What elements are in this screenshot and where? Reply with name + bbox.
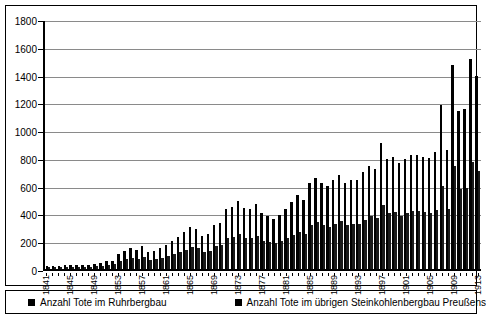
legend-item-uebriger-steinkohlenbergbau: Anzahl Tote im übrigen Steinkohlenbergba… (235, 297, 486, 308)
x-axis-tick-mark (418, 273, 419, 276)
legend-label: Anzahl Tote im übrigen Steinkohlenbergba… (247, 297, 486, 308)
x-axis-tick-mark (220, 273, 221, 276)
y-axis-tick-label: 1400 (15, 71, 37, 82)
bar-group (475, 21, 481, 269)
bar-uebriger-steinkohlenbergbau (478, 171, 480, 269)
x-axis-tick-mark (172, 273, 173, 276)
x-axis-tick-mark (340, 273, 341, 276)
y-axis-tick-label: 800 (20, 154, 37, 165)
x-axis-tick-mark (346, 273, 347, 276)
y-axis-tick-mark (38, 271, 43, 272)
x-axis-tick-mark (154, 273, 155, 276)
y-axis-tick-label: 1600 (15, 43, 37, 54)
x-axis-tick-mark (100, 273, 101, 276)
x-axis-tick-mark (148, 273, 149, 276)
x-axis-tick-mark (202, 273, 203, 276)
x-axis-tick-mark (250, 273, 251, 276)
x-axis-tick-mark (298, 273, 299, 276)
legend-swatch-icon (235, 299, 242, 306)
x-axis-tick-mark (268, 273, 269, 276)
y-axis-tick-label: 200 (20, 238, 37, 249)
x-axis-tick-mark (274, 273, 275, 276)
y-axis-tick-label: 1200 (15, 99, 37, 110)
y-axis-tick-label: 0 (31, 266, 37, 277)
x-axis-tick-mark (388, 273, 389, 276)
x-axis-tick-mark (196, 273, 197, 276)
y-axis-tick-label: 600 (20, 182, 37, 193)
y-axis: 020040060080010001200140016001800 (6, 6, 43, 272)
x-axis-tick-mark (364, 273, 365, 276)
chart-legend: Anzahl Tote im Ruhrbergbau Anzahl Tote i… (5, 290, 477, 314)
y-axis-tick-label: 1800 (15, 16, 37, 27)
x-axis-tick-mark (52, 273, 53, 276)
x-axis-tick-mark (436, 273, 437, 276)
x-axis-tick-mark (82, 273, 83, 276)
bar-series-container (45, 21, 481, 269)
x-axis-tick-mark (394, 273, 395, 276)
x-axis-tick-mark (130, 273, 131, 276)
x-axis-tick-mark (178, 273, 179, 276)
plot-area (43, 21, 481, 271)
x-axis-tick-mark (460, 273, 461, 276)
x-axis-tick-mark (316, 273, 317, 276)
legend-item-ruhrbergbau: Anzahl Tote im Ruhrbergbau (28, 297, 167, 308)
x-axis-tick-mark (58, 273, 59, 276)
legend-label: Anzahl Tote im Ruhrbergbau (40, 297, 167, 308)
x-axis-tick-mark (442, 273, 443, 276)
x-axis-tick-mark (292, 273, 293, 276)
x-axis-tick-mark (322, 273, 323, 276)
y-axis-tick-label: 1000 (15, 127, 37, 138)
x-axis-tick-mark (370, 273, 371, 276)
legend-swatch-icon (28, 299, 35, 306)
x-axis-tick-mark (466, 273, 467, 276)
x-axis-tick-mark (106, 273, 107, 276)
x-axis-tick-mark (76, 273, 77, 276)
x-axis-tick-mark (244, 273, 245, 276)
x-axis-tick-mark (412, 273, 413, 276)
chart-frame: 020040060080010001200140016001800 184118… (5, 5, 477, 286)
x-axis-tick-mark (124, 273, 125, 276)
y-axis-tick-label: 400 (20, 210, 37, 221)
x-axis-tick-mark (226, 273, 227, 276)
